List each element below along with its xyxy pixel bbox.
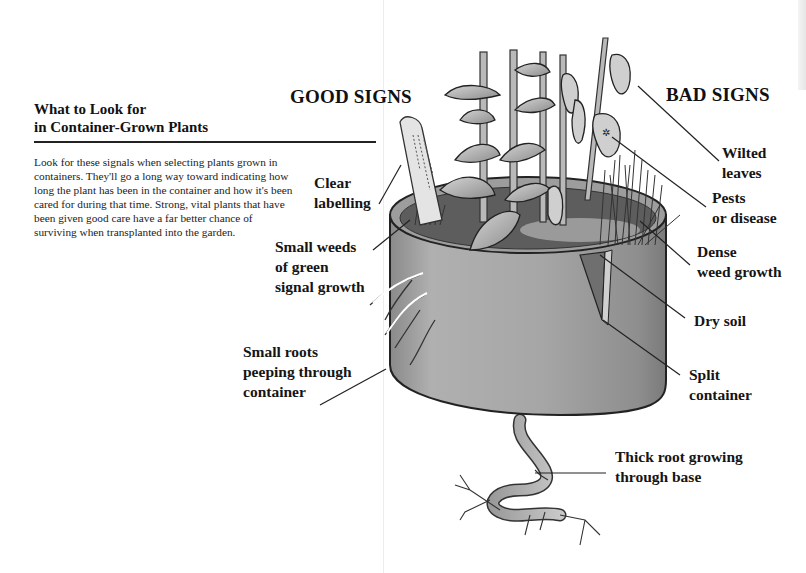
callout-dense-weed-growth: Dense weed growth	[697, 242, 782, 282]
callout-small-roots: Small roots peeping through container	[243, 342, 352, 402]
callout-dry-soil: Dry soil	[694, 311, 746, 331]
callout-pests-disease: Pests or disease	[712, 188, 777, 228]
callout-small-weeds: Small weeds of green signal growth	[275, 237, 365, 297]
callout-thick-root: Thick root growing through base	[615, 447, 743, 487]
bad-signs-heading: BAD SIGNS	[666, 84, 770, 106]
callout-wilted-leaves: Wilted leaves	[722, 143, 767, 183]
callout-clear-labelling: Clear labelling	[314, 173, 371, 213]
thick-root-drawing	[455, 420, 600, 545]
svg-text:✲: ✲	[602, 127, 610, 138]
callout-split-container: Split container	[689, 365, 752, 405]
good-signs-heading: GOOD SIGNS	[290, 86, 412, 108]
